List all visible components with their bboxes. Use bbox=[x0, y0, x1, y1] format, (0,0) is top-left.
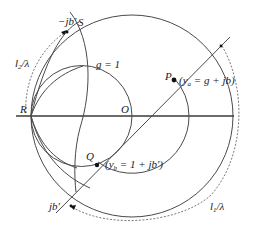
label-l2-lambda: l2/λ bbox=[15, 57, 30, 71]
label-yb: (yb = 1 + jb′) bbox=[105, 158, 163, 172]
label-g1: g = 1 bbox=[96, 58, 120, 70]
label-r: R bbox=[19, 103, 27, 115]
point-q-marker bbox=[95, 163, 99, 167]
label-s: S bbox=[78, 16, 84, 28]
label-ya: (ya = g + jb) bbox=[179, 74, 235, 88]
label-minus-jb: −jb′ bbox=[58, 15, 77, 27]
label-q: Q bbox=[86, 150, 94, 162]
l2-dashed-arc bbox=[26, 33, 64, 113]
susceptance-arc-lower bbox=[31, 116, 90, 188]
label-plus-jb: jb′ bbox=[47, 200, 61, 212]
point-top-right-marker bbox=[220, 45, 223, 48]
susceptance-arc-upper bbox=[31, 22, 79, 116]
point-jb-marker bbox=[70, 205, 73, 208]
rotated-g-circle-arc bbox=[70, 12, 88, 192]
label-o: O bbox=[121, 103, 129, 115]
label-l1-lambda: l1/λ bbox=[210, 200, 225, 214]
point-minus-jb-marker bbox=[66, 31, 69, 34]
point-p-marker bbox=[172, 78, 177, 83]
label-p: P bbox=[164, 70, 172, 82]
inner-lens-upper bbox=[31, 66, 83, 116]
l1-dashed-arc bbox=[72, 46, 239, 221]
smith-chart-diagram: R O P Q S g = 1 (ya = g + jb) (yb = 1 + … bbox=[0, 0, 266, 232]
